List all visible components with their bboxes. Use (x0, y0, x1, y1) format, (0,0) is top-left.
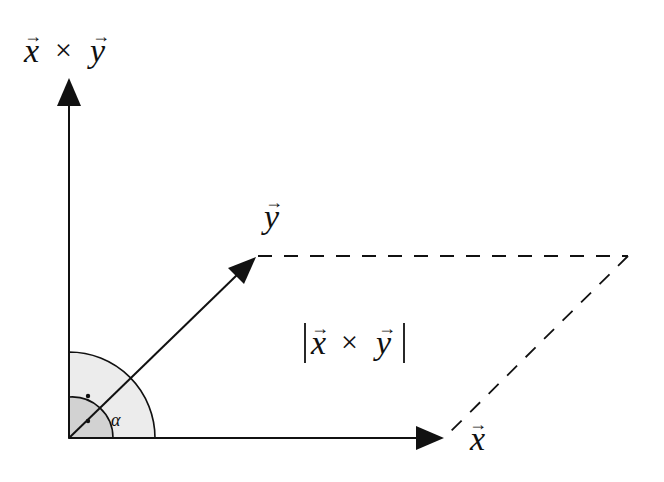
svg-text:→: → (311, 318, 329, 338)
parallelogram-right-edge (446, 256, 628, 436)
svg-text:×: × (55, 33, 72, 66)
label-vector-x: x → (469, 414, 487, 457)
arrowhead-icon (416, 426, 444, 450)
svg-text:→: → (265, 192, 283, 212)
label-vector-y: y → (261, 192, 283, 235)
label-area: x → × y → (305, 318, 404, 363)
svg-text:→: → (378, 318, 396, 338)
right-angle-dot (86, 394, 90, 398)
svg-text:→: → (92, 26, 110, 46)
svg-text:×: × (341, 325, 358, 358)
arrowhead-icon (57, 78, 81, 106)
label-cross-product-axis: x → × y → (23, 26, 110, 69)
svg-text:→: → (469, 414, 487, 434)
label-angle-alpha: α (111, 410, 121, 430)
svg-text:→: → (24, 26, 42, 46)
cross-product-diagram: x → × y → y → x → x → × y → α (0, 0, 664, 482)
